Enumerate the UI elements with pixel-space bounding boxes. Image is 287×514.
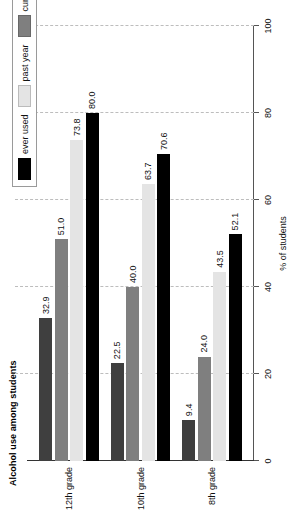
axis-tick: [254, 460, 259, 461]
bar: [213, 272, 226, 461]
legend-item[interactable]: past year: [18, 44, 31, 107]
axis-title: % of students: [278, 216, 285, 271]
bar-value-label: 73.8: [72, 118, 82, 136]
legend-swatch: [18, 158, 31, 180]
legend-label: current use: [20, 0, 30, 11]
bar-series-layer: 52.143.524.09.470.663.740.022.580.073.85…: [27, 26, 254, 461]
chart-title: Alcohol use among students: [8, 360, 18, 486]
category-label: 12th grade: [64, 467, 74, 510]
bar: [229, 234, 242, 461]
bar-value-label: 63.7: [143, 162, 153, 180]
bar-value-label: 43.5: [215, 250, 225, 268]
bar-value-label: 32.9: [41, 296, 51, 314]
bar: [126, 287, 139, 461]
bar: [39, 318, 52, 461]
legend-label: past year: [20, 44, 30, 81]
bar-value-label: 52.1: [230, 213, 240, 231]
bar: [55, 239, 68, 461]
bar-value-label: 9.4: [184, 404, 194, 417]
bar: [70, 140, 83, 461]
axis-tick-label: 0: [263, 458, 273, 463]
rotated-chart-stage: Alcohol use among students 52.143.524.09…: [0, 0, 285, 514]
chart-legend: ever usedpast yearcurrent usebeen drunk: [12, 0, 37, 187]
axis-tick-label: 60: [263, 195, 273, 205]
category-label: 8th grade: [207, 467, 217, 505]
bar-value-label: 22.5: [112, 342, 122, 360]
axis-tick: [254, 286, 259, 287]
bar: [111, 363, 124, 461]
bar: [198, 357, 211, 461]
axis-tick-label: 100: [263, 18, 273, 33]
axis-tick-label: 40: [263, 282, 273, 292]
legend-item[interactable]: current use: [18, 0, 31, 37]
legend-swatch: [18, 85, 31, 107]
axis-tick: [254, 199, 259, 200]
legend-label: ever used: [20, 114, 30, 154]
plot-area: 52.143.524.09.470.663.740.022.580.073.85…: [27, 26, 254, 461]
bar: [182, 420, 195, 461]
legend-item[interactable]: ever used: [18, 114, 31, 180]
bar: [157, 154, 170, 461]
axis-tick-label: 20: [263, 369, 273, 379]
axis-tick: [254, 112, 259, 113]
chart-figure: Alcohol use among students 52.143.524.09…: [0, 0, 285, 514]
legend-swatch: [18, 15, 31, 37]
bar: [142, 184, 155, 461]
bar-value-label: 40.0: [128, 265, 138, 283]
bar-value-label: 51.0: [56, 218, 66, 236]
category-label: 10th grade: [136, 467, 146, 510]
bar: [86, 113, 99, 461]
bar-value-label: 24.0: [199, 335, 209, 353]
axis-tick: [254, 373, 259, 374]
bar-value-label: 80.0: [87, 91, 97, 109]
axis-tick-label: 80: [263, 108, 273, 118]
axis-tick: [254, 25, 259, 26]
bar-value-label: 70.6: [159, 132, 169, 150]
